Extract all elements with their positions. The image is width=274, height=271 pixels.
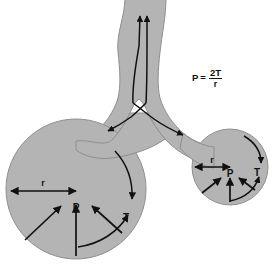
formula-denominator: r bbox=[213, 80, 218, 89]
formula-equals-sign: = bbox=[200, 73, 206, 83]
alveoli-laplace-diagram: r P T r P T P = 2T r bbox=[0, 0, 274, 271]
small-alveolus-radius-label: r bbox=[210, 155, 214, 165]
small-alveolus-pressure-label: P bbox=[227, 168, 234, 179]
formula-pressure-symbol: P bbox=[192, 73, 198, 83]
diagram-canvas: r P T r P T bbox=[0, 0, 274, 271]
formula-fraction: 2T r bbox=[209, 68, 222, 88]
small-alveolus-tension-label: T bbox=[254, 167, 260, 178]
large-alveolus-pressure-label: P bbox=[73, 202, 80, 213]
large-alveolus-radius-label: r bbox=[41, 178, 45, 188]
laplace-formula: P = 2T r bbox=[192, 68, 222, 88]
formula-numerator: 2T bbox=[209, 68, 222, 78]
large-alveolus-tension-label: T bbox=[123, 212, 129, 223]
